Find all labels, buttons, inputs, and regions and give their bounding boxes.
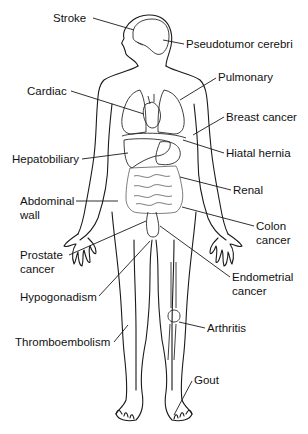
comorbidity-body-diagram: StrokePseudotumor cerebriPulmonaryCardia… <box>0 0 308 434</box>
leader-line-cardiac <box>71 91 144 114</box>
intestines <box>126 166 183 214</box>
liver <box>124 139 170 168</box>
label-prostate-cancer: Prostate cancer <box>20 248 63 276</box>
brain <box>133 19 169 54</box>
label-abdominal-wall: Abdominal wall <box>20 194 74 222</box>
knee-joint <box>168 262 180 360</box>
right-hand <box>210 234 242 266</box>
label-arthritis: Arthritis <box>207 321 246 335</box>
stomach <box>156 142 180 165</box>
right-lung <box>158 90 184 134</box>
label-renal: Renal <box>233 183 263 197</box>
leader-line-endometrial-cancer <box>160 226 230 277</box>
leader-line-pseudotumor <box>163 40 184 44</box>
label-colon-cancer: Colon cancer <box>256 219 291 247</box>
label-cardiac: Cardiac <box>27 84 67 98</box>
label-thromboembolism: Thromboembolism <box>15 335 110 349</box>
left-lung <box>122 90 146 134</box>
label-hiatal-hernia: Hiatal hernia <box>226 146 291 160</box>
label-stroke: Stroke <box>53 11 86 25</box>
leader-line-hepatobiliary <box>82 153 128 159</box>
leader-line-renal <box>180 177 231 190</box>
label-hypogonadism: Hypogonadism <box>20 290 97 304</box>
torso-outline-right <box>166 66 228 234</box>
right-leg <box>156 212 196 421</box>
left-leg <box>112 212 152 421</box>
leader-line-pulmonary <box>180 78 216 100</box>
label-pseudotumor: Pseudotumor cerebri <box>186 37 293 51</box>
label-endometrial-cancer: Endometrial cancer <box>232 270 293 298</box>
label-hepatobiliary: Hepatobiliary <box>12 152 79 166</box>
leader-line-colon-cancer <box>182 207 254 226</box>
label-breast-cancer: Breast cancer <box>226 110 297 124</box>
leader-line-hypogonadism <box>99 241 150 296</box>
leader-line-thromboembolism <box>114 325 128 342</box>
label-pulmonary: Pulmonary <box>218 70 273 84</box>
rectum <box>147 212 159 237</box>
leader-line-arthritis <box>179 322 205 328</box>
leader-line-hiatal-hernia <box>183 140 224 153</box>
label-gout: Gout <box>194 373 219 387</box>
